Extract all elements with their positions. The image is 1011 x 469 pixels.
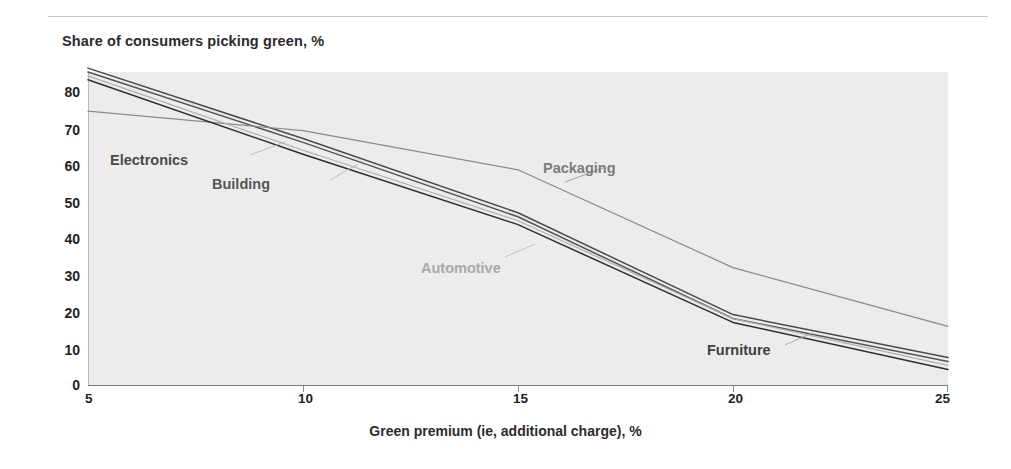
series-label-packaging: Packaging	[543, 160, 616, 176]
leader-line-electronics	[250, 142, 285, 155]
series-line-building	[88, 72, 948, 362]
series-label-automotive: Automotive	[421, 260, 501, 276]
series-label-furniture: Furniture	[707, 342, 771, 358]
leader-line-building	[330, 164, 358, 180]
series-line-electronics	[88, 68, 948, 358]
leader-line-automotive	[505, 244, 535, 257]
series-line-packaging	[88, 111, 948, 326]
chart-page: Share of consumers picking green, % 80 7…	[0, 0, 1011, 469]
plot-area: 80 70 60 50 40 30 20 10 0 5 10 15 20 25	[0, 0, 1011, 469]
x-axis-title: Green premium (ie, additional charge), %	[0, 423, 1011, 439]
series-lines	[0, 0, 1011, 469]
series-line-automotive	[88, 76, 948, 366]
series-label-electronics: Electronics	[110, 152, 188, 168]
series-label-building: Building	[212, 176, 270, 192]
